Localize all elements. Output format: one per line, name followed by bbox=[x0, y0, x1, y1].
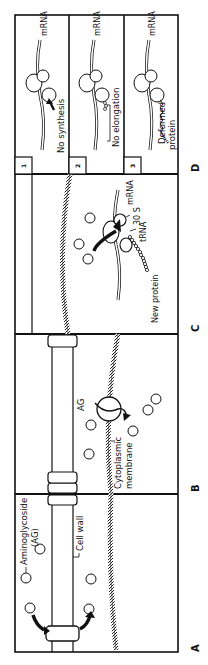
mrna-label: mRNA bbox=[93, 11, 102, 36]
panel-letter-c: C bbox=[190, 325, 201, 332]
ag-molecule bbox=[25, 603, 35, 613]
porin-collar bbox=[48, 335, 77, 347]
no-synthesis-caption: No synthesis bbox=[56, 98, 66, 153]
ag-molecule bbox=[21, 573, 31, 583]
ag-molecule bbox=[85, 213, 95, 223]
entry-arrow-icon bbox=[33, 615, 44, 630]
deformed-caption-line1: Deformed bbox=[157, 102, 167, 144]
subpanel-2: mRNA No elongation bbox=[79, 11, 121, 150]
porin-channel bbox=[46, 626, 79, 641]
mrna-label: mRNA bbox=[126, 180, 135, 205]
new-protein-label: New protein bbox=[151, 275, 160, 323]
porin-collar bbox=[48, 472, 77, 483]
mrna-label: mRNA bbox=[40, 11, 49, 36]
ag-molecule bbox=[86, 420, 96, 430]
panel-letter-d: D bbox=[190, 164, 201, 172]
pointer-line bbox=[126, 215, 130, 217]
ribosome-subunit bbox=[90, 70, 102, 82]
pointer-line bbox=[130, 229, 136, 231]
ag-molecule bbox=[151, 394, 161, 404]
panel-letter-a: A bbox=[190, 644, 201, 652]
subpanel-number-1: 1 bbox=[20, 164, 27, 168]
ribosome-subunit bbox=[95, 88, 109, 102]
ag-molecule bbox=[74, 239, 84, 249]
subpanel-3: mRNA Deformed protein bbox=[134, 11, 177, 150]
ag-molecule bbox=[84, 604, 94, 614]
subpanel-number-2: 2 bbox=[74, 164, 81, 168]
ag-molecule bbox=[143, 405, 153, 415]
panel-letter-b: B bbox=[190, 484, 201, 492]
panel-b: AG Cytoplasmic membrane bbox=[48, 334, 161, 494]
panel-d: 1 2 3 mRNA No synthesis bbox=[15, 11, 177, 174]
porin-collar bbox=[48, 483, 77, 493]
panel-c: mRNA 30 S tRNA New protein bbox=[32, 174, 160, 334]
ag-molecule bbox=[128, 426, 138, 436]
membrane-label-line1: Cytoplasmic bbox=[113, 436, 123, 489]
ribosome-subunit bbox=[150, 88, 164, 102]
short-peptide bbox=[104, 102, 108, 111]
no-elongation-caption: No elongation bbox=[111, 88, 121, 147]
aminoglycoside-label: Aminoglycoside bbox=[19, 498, 29, 565]
bracket bbox=[107, 105, 110, 141]
ag-molecule bbox=[86, 574, 96, 584]
cell-wall-label: Cell wall bbox=[75, 516, 85, 551]
aminoglycoside-mechanism-diagram: Aminoglycoside (AG) Cell wall AG Cytopla… bbox=[0, 0, 208, 665]
mrna-label: mRNA bbox=[148, 11, 157, 36]
ag-molecule bbox=[84, 449, 94, 459]
ribosome-subunit bbox=[37, 70, 49, 82]
ag-label: AG bbox=[76, 399, 86, 411]
panel-a: Aminoglycoside (AG) Cell wall bbox=[19, 494, 116, 652]
subpanel-number-3: 3 bbox=[129, 164, 136, 168]
trna-label: tRNA bbox=[139, 221, 148, 242]
ag-abbrev-label: (AG) bbox=[30, 528, 40, 547]
membrane-label-line2: membrane bbox=[124, 442, 134, 489]
deformed-caption-line2: protein bbox=[167, 120, 177, 150]
porin-collar bbox=[48, 495, 77, 505]
arrowhead-icon bbox=[123, 413, 131, 421]
ag-molecule bbox=[83, 254, 93, 264]
ribosome-subunit bbox=[145, 70, 157, 82]
subpanel-1: mRNA No synthesis bbox=[26, 11, 66, 153]
diagram-stage: Aminoglycoside (AG) Cell wall AG Cytopla… bbox=[0, 0, 208, 665]
